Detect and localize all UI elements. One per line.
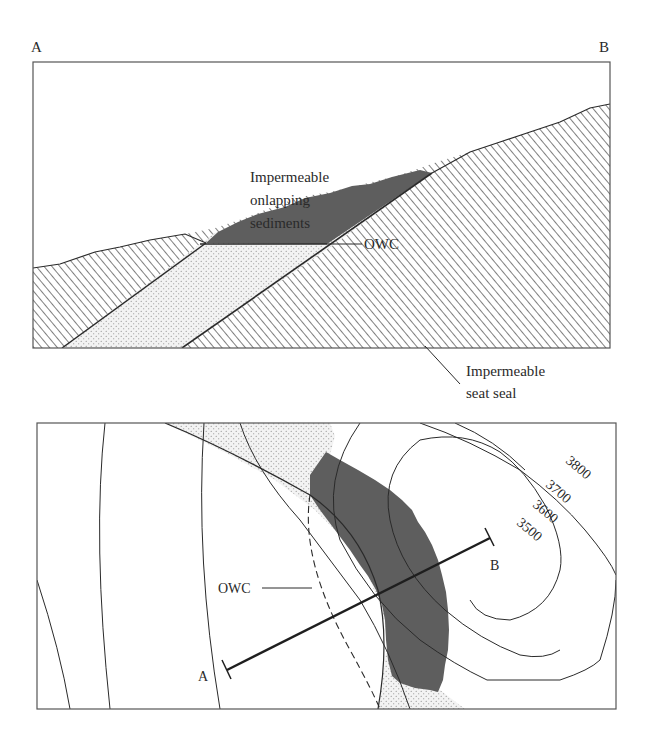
onlap-label-line1: Impermeable [250, 169, 329, 185]
seal-label-line1: Impermeable [466, 363, 545, 379]
contour-3800 [420, 423, 616, 575]
onlap-label-line2: onlapping [250, 192, 310, 208]
map-view: A B OWC 3800 3700 3600 3500 [37, 423, 616, 709]
map-section-end-a: A [198, 669, 209, 684]
owc-label: OWC [364, 236, 399, 252]
seal-leader-line [425, 346, 460, 384]
cross-section: A B Impermeable onlapping sediments OWC [31, 39, 610, 401]
section-end-label-a: A [31, 39, 42, 55]
map-section-end-b: B [490, 558, 499, 573]
contour-label-3500: 3500 [514, 515, 545, 544]
onlap-label-line3: sediments [250, 215, 310, 231]
seal-label-line2: seat seal [466, 385, 516, 401]
contour-label-3800: 3800 [563, 453, 594, 482]
map-oil-zone [310, 452, 449, 692]
section-end-label-b: B [599, 39, 609, 55]
diagram-canvas: A B Impermeable onlapping sediments OWC [0, 0, 647, 744]
map-owc-label: OWC [218, 581, 251, 596]
contour-label-3600: 3600 [530, 497, 561, 526]
